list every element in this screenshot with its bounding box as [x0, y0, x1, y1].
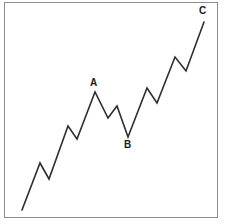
wave-point-label-c: C [199, 6, 206, 16]
zigzag-wave-line [22, 22, 204, 210]
wave-point-label-a: A [90, 78, 97, 88]
chart-figure: A B C [0, 0, 226, 224]
wave-point-label-b: B [124, 140, 131, 150]
zigzag-wave-chart [0, 0, 226, 224]
